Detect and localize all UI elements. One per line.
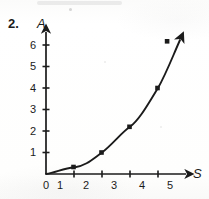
data-point <box>155 86 160 91</box>
data-point <box>165 39 170 44</box>
y-tick-label-1: 1 <box>27 147 39 158</box>
y-tick-label-2: 2 <box>27 126 39 137</box>
x-tick-label-5: 5 <box>164 180 176 191</box>
x-tick-label-1: 1 <box>54 180 66 191</box>
data-curve <box>46 40 180 174</box>
data-point <box>99 150 104 155</box>
data-point <box>71 165 76 170</box>
plot-area <box>0 0 209 199</box>
x-tick-label-2: 2 <box>80 180 92 191</box>
y-tick-label-3: 3 <box>27 104 39 115</box>
x-tick-label-4: 4 <box>136 180 148 191</box>
y-tick-label-6: 6 <box>27 40 39 51</box>
data-point <box>127 125 132 130</box>
y-tick-label-5: 5 <box>27 61 39 72</box>
figure-panel: 2. A S <box>0 0 209 199</box>
x-tick-label-3: 3 <box>108 180 120 191</box>
x-tick-label-0: 0 <box>40 180 52 191</box>
data-point-markers <box>71 39 169 169</box>
y-tick-label-4: 4 <box>27 83 39 94</box>
